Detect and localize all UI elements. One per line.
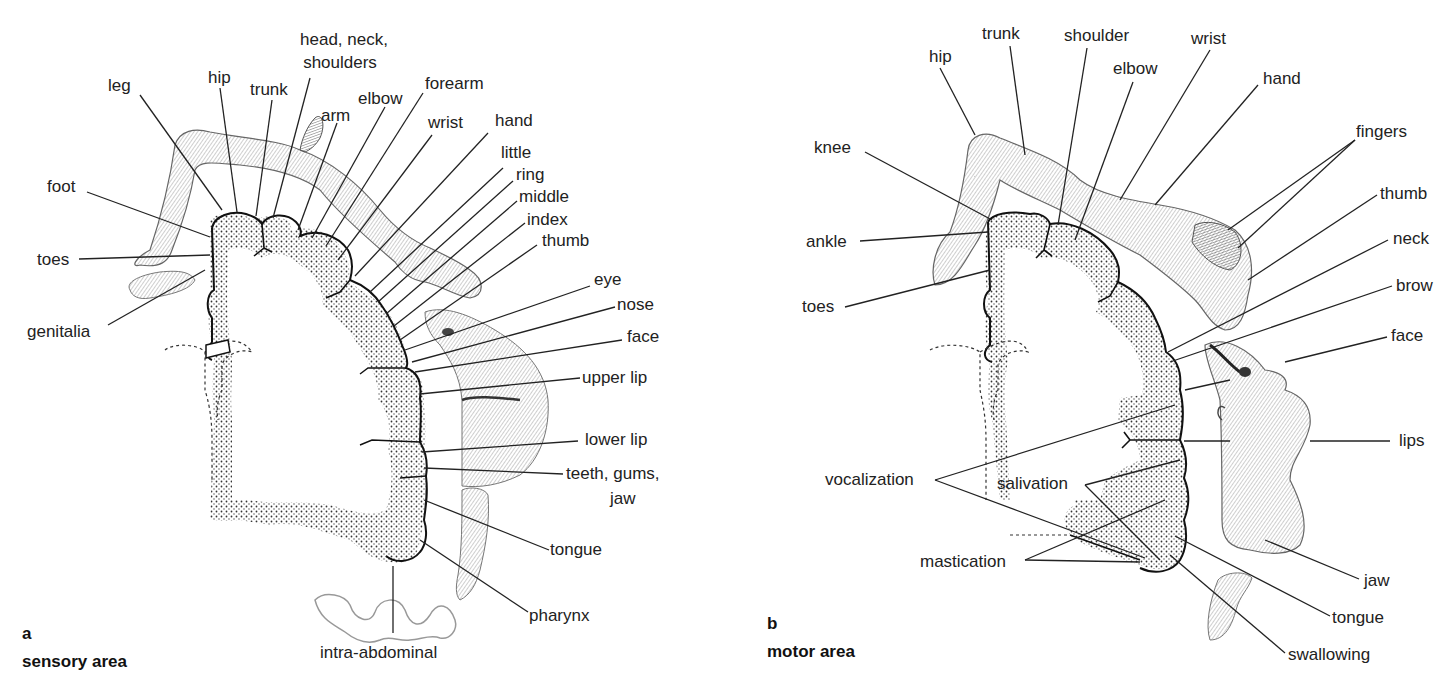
label-genitalia: genitalia [27,322,90,341]
label-swallowing: swallowing [1288,645,1370,664]
label-intra-abdominal: intra-abdominal [320,643,437,662]
label-elbow: elbow [358,89,402,108]
label-vocalization: vocalization [825,470,914,489]
homunculus-artwork [0,0,1456,696]
label-salivation: salivation [997,474,1068,493]
panel-title-sensory: sensory area [22,652,127,672]
label-teeth-gums-jaw-line1: teeth, gums, [566,464,660,483]
label-face: face [627,327,659,346]
label-trunk: trunk [982,24,1020,43]
panel-letter-b: b [767,614,777,634]
label-thumb: thumb [1380,184,1427,203]
label-trunk: trunk [250,80,288,99]
label-hip: hip [208,68,231,87]
label-head-neck-shoulders-line2: shoulders [290,53,390,72]
label-arm: arm [321,106,350,125]
panel-title-motor: motor area [767,642,855,662]
label-toes: toes [802,297,834,316]
sensory-cortex-section [165,213,427,563]
label-fingers: fingers [1356,122,1407,141]
motor-cortex-section [930,212,1189,571]
label-shoulder: shoulder [1064,26,1129,45]
label-head-neck-shoulders-line1: head, neck, [288,30,400,49]
label-foot: foot [47,177,75,196]
label-wrist: wrist [428,113,463,132]
label-toes: toes [37,250,69,269]
label-nose: nose [617,295,654,314]
label-hand: hand [495,111,533,130]
label-little: little [501,143,531,162]
label-index: index [527,210,568,229]
label-lower-lip: lower lip [585,430,647,449]
label-tongue: tongue [1332,608,1384,627]
label-hip: hip [929,47,952,66]
label-middle: middle [519,187,569,206]
label-tongue: tongue [550,540,602,559]
label-forearm: forearm [425,74,484,93]
label-teeth-gums-jaw-line2: jaw [610,489,636,508]
label-elbow: elbow [1113,59,1157,78]
label-ankle: ankle [806,232,847,251]
label-ring: ring [516,165,544,184]
label-leg: leg [108,76,131,95]
label-wrist: wrist [1191,29,1226,48]
panel-letter-a: a [22,624,31,644]
label-thumb: thumb [542,231,589,250]
label-face: face [1391,326,1423,345]
label-brow: brow [1396,276,1433,295]
label-jaw: jaw [1364,571,1390,590]
label-eye: eye [594,270,621,289]
label-hand: hand [1263,69,1301,88]
label-neck: neck [1393,229,1429,248]
label-upper-lip: upper lip [582,368,647,387]
label-mastication: mastication [920,552,1006,571]
label-lips: lips [1399,431,1425,450]
label-knee: knee [814,138,851,157]
label-pharynx: pharynx [529,606,589,625]
